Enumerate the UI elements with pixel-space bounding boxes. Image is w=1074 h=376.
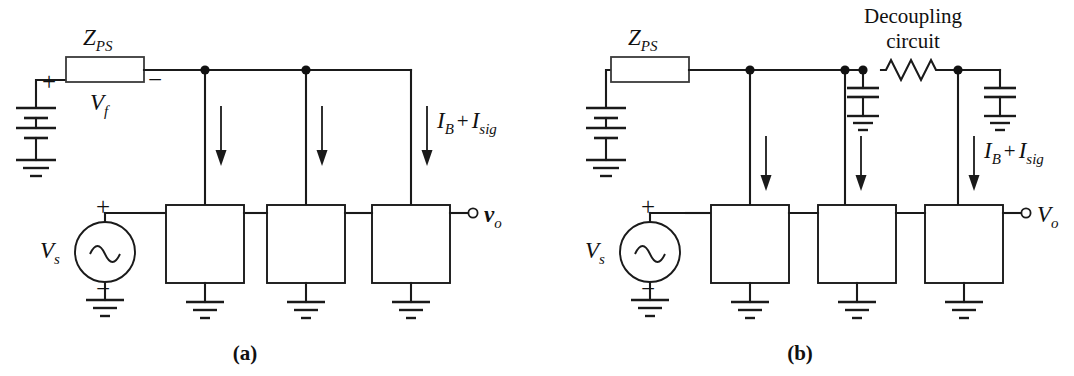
panel-b-stage-box-3 (925, 205, 1003, 283)
panel-b-down-arrow-icon-1 (761, 136, 772, 191)
panel-a-impedance-label: ZPS (83, 25, 113, 54)
panel-b-battery-ground-icon (586, 160, 626, 176)
panel-b-source-ground-icon (631, 300, 669, 316)
panel-a-impedance-plus-sign: + (42, 68, 56, 95)
panel-b-capacitor-icon-1 (847, 70, 879, 130)
panel-b-decoupling-label-line2: circuit (886, 29, 940, 53)
panel-a-down-arrow-icon-3 (422, 106, 433, 166)
panel-b-junction-dot-icon-3 (858, 65, 867, 74)
panel-a-source-label: Vs (40, 238, 60, 267)
panel-a-caption: (a) (233, 341, 258, 365)
panel-b-decoupling-label-line1: Decoupling (864, 4, 962, 28)
panel-b-stage-box-2 (818, 205, 896, 283)
panel-b-impedance-label: ZPS (628, 25, 658, 54)
panel-b-stage-ground-icon-2 (838, 283, 876, 318)
panel-b-battery-icon (586, 108, 626, 160)
panel-a-down-arrow-icon-1 (216, 106, 227, 166)
panel-a-source-ground-icon (86, 300, 124, 316)
panel-a-battery-icon (16, 108, 56, 160)
panel-b-down-arrow-icon-2 (856, 136, 867, 191)
panel-a (16, 57, 478, 318)
panel-b-open-terminal-icon (1021, 208, 1030, 217)
panel-b-caption: (b) (787, 341, 813, 365)
panel-a-junction-dot-icon-2 (301, 65, 310, 74)
panel-b-junction-dot-icon-2 (840, 65, 849, 74)
panel-a-stage-box-3 (372, 205, 450, 283)
panel-a-stage-box-1 (166, 205, 244, 283)
panel-a-junction-dot-icon-1 (200, 65, 209, 74)
panel-a-impedance-minus-sign: − (148, 66, 162, 93)
panel-a-stage-box-2 (267, 205, 345, 283)
panel-a-feedback-voltage-label: Vf (90, 90, 110, 119)
panel-a-impedance-block-icon (66, 57, 144, 82)
panel-b-stage-ground-icon-1 (731, 283, 769, 318)
panel-b-resistor-icon (881, 60, 958, 80)
panel-b-source-minus-sign: − (641, 275, 655, 302)
panel-a-output-label: vo (484, 202, 502, 231)
panel-a-source-minus-sign: − (96, 275, 110, 302)
panel-b-down-arrow-icon-3 (969, 136, 980, 191)
panel-b-stage-box-1 (711, 205, 789, 283)
panel-b-source-label: Vs (585, 238, 605, 267)
panel-a-stage-ground-icon-2 (287, 283, 325, 318)
panel-b-source-plus-sign: + (641, 193, 655, 220)
panel-b-junction-dot-icon-4 (953, 65, 962, 74)
panel-b-junction-dot-icon-1 (745, 65, 754, 74)
panel-b-stage-ground-icon-3 (945, 283, 983, 318)
panel-a-down-arrow-icon-2 (317, 106, 328, 166)
panel-a-stage-ground-icon-3 (392, 283, 430, 318)
panel-a-current-label: IB+Isig (436, 108, 497, 137)
panel-a-battery-ground-icon (16, 160, 56, 176)
panel-a-stage-ground-icon-1 (186, 283, 224, 318)
panel-b-impedance-block-icon (611, 57, 689, 82)
panel-a-open-terminal-icon (468, 208, 477, 217)
panel-b-capacitor-icon-2 (984, 70, 1016, 130)
panel-b-output-label: Vo (1037, 202, 1059, 231)
circuit-canvas: ZPS + − Vf + − Vs vo IB+Isig (a) ZPS (0, 0, 1074, 376)
panel-a-source-plus-sign: + (96, 193, 110, 220)
circuit-figure: ZPS + − Vf + − Vs vo IB+Isig (a) ZPS (0, 0, 1074, 376)
panel-b-current-label: IB+Isig (983, 138, 1044, 167)
